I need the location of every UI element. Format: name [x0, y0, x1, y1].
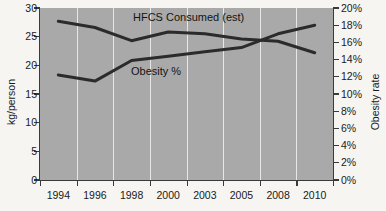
y-axis-right-tick-label: 18%: [341, 20, 362, 31]
y-axis-left-tick-label: 0: [31, 175, 37, 186]
y-axis-right-tick: [334, 25, 339, 26]
x-axis-tick: [113, 181, 114, 186]
y-axis-right-tick-label: 8%: [341, 106, 356, 117]
y-axis-right-tick: [334, 42, 339, 43]
y-axis-right-tick-label: 20%: [341, 3, 362, 14]
x-axis-tick: [223, 181, 224, 186]
x-axis-tick: [187, 181, 188, 186]
y-axis-right-tick: [334, 93, 339, 94]
y-axis-right-title: Obesity rate: [369, 67, 381, 137]
series-label-obesity: Obesity %: [131, 65, 181, 77]
y-axis-left-tick-label: 20: [25, 60, 37, 71]
y-axis-left-tick-label: 30: [25, 3, 37, 14]
y-axis-right-tick: [334, 111, 339, 112]
y-axis-right-tick: [334, 179, 339, 180]
y-axis-right-tick-label: 16%: [341, 37, 362, 48]
series-line-hfcs: [58, 21, 314, 53]
y-axis-right-tick-label: 0%: [341, 175, 356, 186]
y-axis-right-tick: [334, 162, 339, 163]
y-axis-left-tick-label: 25: [25, 31, 37, 42]
x-axis-tick: [333, 181, 334, 186]
x-axis-tick: [77, 181, 78, 186]
y-axis-right-tick: [334, 128, 339, 129]
y-axis-right-tick: [334, 59, 339, 60]
y-axis-right-tick-label: 12%: [341, 71, 362, 82]
series-label-hfcs: HFCS Consumed (est): [133, 11, 244, 23]
y-axis-left-tick-label: 15: [25, 89, 37, 100]
y-axis-left-tick-label: 5: [31, 146, 37, 157]
y-axis-left-line: [39, 7, 40, 181]
chart-container: 051015202530 0%2%4%6%8%10%12%14%16%18%20…: [0, 0, 386, 211]
y-axis-right-tick-label: 10%: [341, 89, 362, 100]
x-axis-tick: [260, 181, 261, 186]
y-axis-left-tick-label: 10: [25, 117, 37, 128]
y-axis-right-tick-label: 2%: [341, 157, 356, 168]
y-axis-right-tick: [334, 7, 339, 8]
series-lines: [40, 8, 333, 180]
y-axis-right-tick: [334, 145, 339, 146]
x-axis-tick: [40, 181, 41, 186]
y-axis-left-title: kg/person: [5, 67, 17, 137]
y-axis-right-tick: [334, 76, 339, 77]
y-axis-right-tick-label: 14%: [341, 54, 362, 65]
x-axis-tick: [150, 181, 151, 186]
x-axis-tick-label: 2010: [293, 190, 337, 201]
plot-area: [40, 8, 333, 180]
y-axis-right-tick-label: 6%: [341, 123, 356, 134]
y-axis-right-tick-label: 4%: [341, 140, 356, 151]
x-axis-tick: [296, 181, 297, 186]
